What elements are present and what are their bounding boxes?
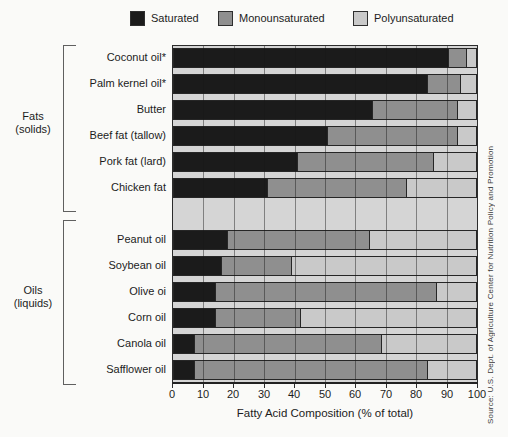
bar-label: Corn oil xyxy=(40,311,166,323)
x-tick-label: 30 xyxy=(249,388,279,400)
legend-label: Polyunsaturated xyxy=(374,12,454,24)
gridline xyxy=(234,46,235,382)
bar-segment-monounsaturated xyxy=(228,231,370,249)
bar-label: Pork fat (lard) xyxy=(40,155,166,167)
x-tick-label: 90 xyxy=(432,388,462,400)
fats-group-label-line2: (solids) xyxy=(2,123,64,136)
monounsaturated-swatch-icon xyxy=(218,11,233,26)
gridline xyxy=(264,46,265,382)
oils-group-label: Oils (liquids) xyxy=(2,284,64,310)
legend-item-polyunsaturated: Polyunsaturated xyxy=(353,10,454,26)
saturated-swatch-icon xyxy=(130,11,145,26)
legend-label: Monounsaturated xyxy=(239,12,325,24)
plot-area xyxy=(172,45,478,384)
oils-group-label-line1: Oils xyxy=(2,284,64,297)
gridline xyxy=(386,46,387,382)
gridline xyxy=(447,46,448,382)
bar-segment-monounsaturated xyxy=(216,309,301,327)
bar-label: Canola oil xyxy=(40,337,166,349)
x-tick-label: 0 xyxy=(157,388,187,400)
bar-segment-monounsaturated xyxy=(195,361,428,379)
bar-segment-polyunsaturated xyxy=(467,49,476,67)
gridline xyxy=(295,46,296,382)
source-attribution: Source: U.S. Dept. of Agriculture Center… xyxy=(486,92,502,424)
bar-label: Coconut oil* xyxy=(40,51,166,63)
gridline xyxy=(355,46,356,382)
x-tick-label: 80 xyxy=(401,388,431,400)
gridline xyxy=(416,46,417,382)
bar-segment-monounsaturated xyxy=(298,153,434,171)
bar-segment-saturated xyxy=(174,335,195,353)
x-tick-label: 70 xyxy=(371,388,401,400)
bar-segment-monounsaturated xyxy=(328,127,458,145)
x-tick-label: 10 xyxy=(188,388,218,400)
legend-item-saturated: Saturated xyxy=(130,10,199,26)
bar-label: Safflower oil xyxy=(40,363,166,375)
bar-segment-saturated xyxy=(174,283,216,301)
bar-segment-polyunsaturated xyxy=(458,127,476,145)
x-tick-label: 40 xyxy=(279,388,309,400)
polyunsaturated-swatch-icon xyxy=(353,11,368,26)
legend-label: Saturated xyxy=(151,12,199,24)
bar-segment-saturated xyxy=(174,75,428,93)
bar-label: Chicken fat xyxy=(40,181,166,193)
bar-segment-monounsaturated xyxy=(449,49,467,67)
bar-segment-saturated xyxy=(174,361,195,379)
bar-segment-saturated xyxy=(174,49,449,67)
bar-segment-polyunsaturated xyxy=(437,283,476,301)
chart-canvas: SaturatedMonounsaturatedPolyunsaturated … xyxy=(0,0,508,437)
bar-segment-monounsaturated xyxy=(222,257,291,275)
legend: SaturatedMonounsaturatedPolyunsaturated xyxy=(0,0,508,34)
bar-segment-monounsaturated xyxy=(428,75,461,93)
bar-segment-polyunsaturated xyxy=(458,101,476,119)
x-tick-label: 20 xyxy=(218,388,248,400)
fats-group-label-line1: Fats xyxy=(2,110,64,123)
bar-segment-polyunsaturated xyxy=(428,361,476,379)
oils-group-label-line2: (liquids) xyxy=(2,297,64,310)
bar-segment-polyunsaturated xyxy=(434,153,476,171)
bar-segment-saturated xyxy=(174,257,222,275)
fats-group-label: Fats (solids) xyxy=(2,110,64,136)
bar-label: Peanut oil xyxy=(40,233,166,245)
legend-item-monounsaturated: Monounsaturated xyxy=(218,10,325,26)
gridline xyxy=(325,46,326,382)
x-axis-title: Fatty Acid Composition (% of total) xyxy=(172,407,478,419)
oils-group-bracket xyxy=(63,220,76,385)
bar-segment-monounsaturated xyxy=(216,283,436,301)
bar-label: Palm kernel oil* xyxy=(40,77,166,89)
fats-group-bracket xyxy=(63,45,76,212)
x-tick-label: 50 xyxy=(310,388,340,400)
bar-segment-saturated xyxy=(174,179,268,197)
bar-segment-polyunsaturated xyxy=(301,309,476,327)
bar-segment-saturated xyxy=(174,231,228,249)
bar-label: Soybean oil xyxy=(40,259,166,271)
bar-segment-polyunsaturated xyxy=(292,257,476,275)
bar-segment-saturated xyxy=(174,153,298,171)
bar-segment-saturated xyxy=(174,127,328,145)
bar-segment-polyunsaturated xyxy=(461,75,476,93)
bar-segment-polyunsaturated xyxy=(382,335,476,353)
x-tick-label: 60 xyxy=(340,388,370,400)
gridline xyxy=(203,46,204,382)
bar-segment-saturated xyxy=(174,309,216,327)
